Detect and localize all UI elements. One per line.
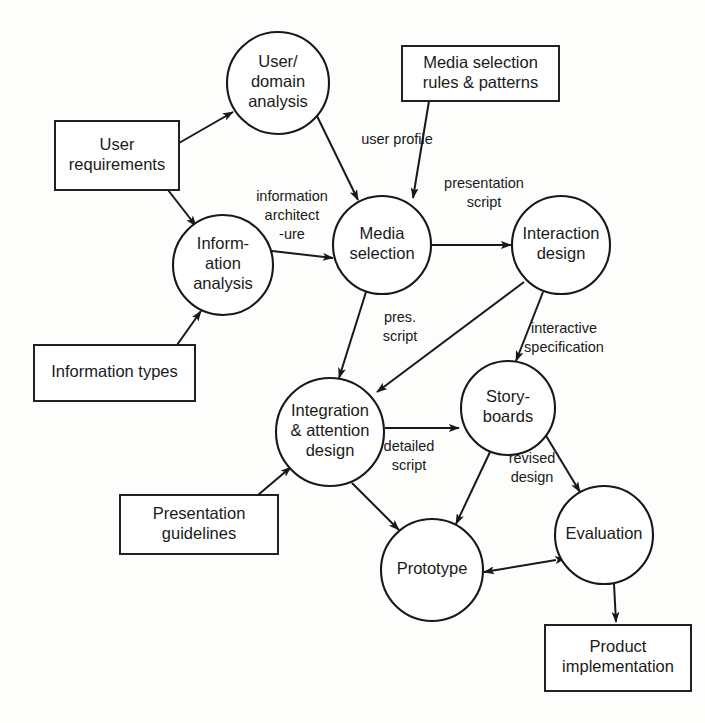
edge-information-analysis-to-media-selection bbox=[272, 251, 333, 258]
node-storyboards[interactable]: Story-boards bbox=[461, 361, 555, 455]
edge-user-requirements-to-user-domain-analysis bbox=[179, 112, 233, 143]
edge-line bbox=[413, 101, 429, 198]
edge-line bbox=[352, 483, 399, 530]
process-diagram: User/domainanalysisInform-ationanalysisM… bbox=[0, 0, 705, 723]
node-user-domain-analysis[interactable]: User/domainanalysis bbox=[227, 32, 329, 134]
node-media-selection[interactable]: Mediaselection bbox=[333, 196, 431, 294]
edge-information-types-to-information-analysis bbox=[177, 311, 201, 345]
edge-presentation-guidelines-to-integration-attention-design bbox=[258, 467, 291, 495]
edge-label-interaction-design-to-storyboards: interactivespecification bbox=[524, 319, 604, 354]
edge-media-selection-rules-to-media-selection bbox=[413, 101, 429, 198]
node-integration-attention-design[interactable]: Integration& attentiondesign bbox=[276, 378, 384, 486]
edge-storyboards-to-prototype bbox=[456, 452, 490, 524]
box-label-information-types: Information types bbox=[51, 362, 178, 380]
box-product-implementation[interactable]: Productimplementation bbox=[545, 625, 691, 691]
edge-line bbox=[258, 467, 291, 495]
edge-label-media-selection-to-integration-attention-design: pres.script bbox=[383, 308, 418, 343]
edge-line bbox=[168, 190, 196, 226]
edge-label-user-domain-analysis-to-media-selection: user profile bbox=[361, 131, 433, 147]
box-user-requirements[interactable]: Userrequirements bbox=[55, 121, 179, 190]
node-evaluation[interactable]: Evaluation bbox=[555, 486, 653, 584]
node-information-analysis[interactable]: Inform-ationanalysis bbox=[173, 215, 273, 315]
edge-line bbox=[177, 311, 201, 345]
edge-user-requirements-to-information-analysis bbox=[168, 190, 196, 226]
box-media-selection-rules[interactable]: Media selectionrules & patterns bbox=[402, 46, 559, 101]
edge-integration-attention-design-to-prototype bbox=[352, 483, 399, 530]
node-label-evaluation: Evaluation bbox=[565, 524, 642, 542]
box-presentation-guidelines[interactable]: Presentationguidelines bbox=[120, 495, 278, 554]
box-information-types[interactable]: Information types bbox=[34, 345, 195, 401]
edge-label-information-analysis-to-media-selection: informationarchitect-ure bbox=[256, 188, 328, 242]
node-interaction-design[interactable]: Interactiondesign bbox=[512, 196, 610, 294]
edge-line bbox=[456, 452, 490, 524]
edge-line bbox=[272, 251, 333, 258]
edge-label-storyboards-evaluation: reviseddesign bbox=[509, 449, 556, 484]
node-prototype[interactable]: Prototype bbox=[381, 519, 483, 621]
edge-line bbox=[484, 560, 556, 572]
node-label-prototype: Prototype bbox=[397, 559, 468, 577]
edge-line bbox=[339, 292, 366, 378]
edge-evaluation-prototype bbox=[484, 560, 556, 572]
edge-label-media-selection-to-interaction-design: presentationscript bbox=[444, 174, 524, 209]
edge-evaluation-to-product-implementation bbox=[614, 584, 616, 622]
edge-line bbox=[614, 584, 616, 622]
edge-label-integration-attention-design-to-storyboards: detailedscript bbox=[384, 437, 435, 472]
edge-media-selection-to-integration-attention-design bbox=[339, 292, 366, 378]
diagram-canvas: User/domainanalysisInform-ationanalysisM… bbox=[0, 0, 705, 723]
edge-line bbox=[179, 112, 233, 143]
